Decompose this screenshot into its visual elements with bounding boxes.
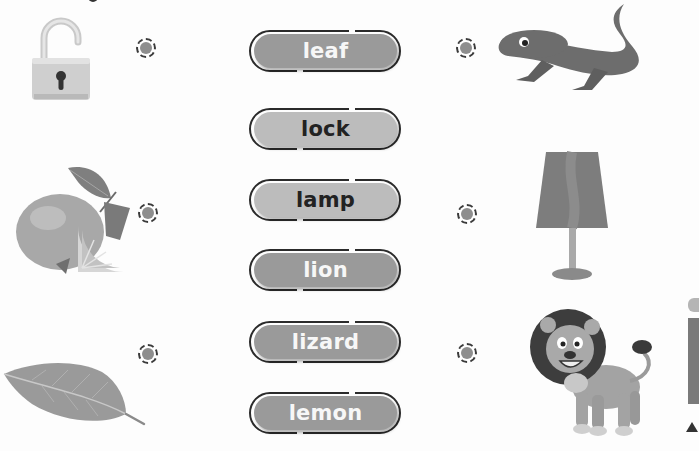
word-pill-lock[interactable]: lock xyxy=(249,108,401,150)
lion-icon xyxy=(526,303,658,438)
connector-dot-right-3[interactable] xyxy=(457,343,477,363)
open-padlock-icon xyxy=(22,12,102,104)
cropped-title-fragment xyxy=(88,0,98,2)
connector-dot-left-2[interactable] xyxy=(138,203,158,223)
picture-lock xyxy=(22,12,102,104)
picture-leaf xyxy=(2,362,147,432)
word-pill-lemon[interactable]: lemon xyxy=(249,392,401,434)
picture-lamp xyxy=(532,150,612,282)
connector-dot-right-1[interactable] xyxy=(456,38,476,58)
lemon-icon xyxy=(8,160,143,280)
word-label: lemon xyxy=(254,396,397,430)
leaf-icon xyxy=(2,362,147,432)
word-label: lamp xyxy=(254,183,397,217)
word-pill-leaf[interactable]: leaf xyxy=(249,30,401,72)
picture-lion xyxy=(526,303,658,438)
word-label: lion xyxy=(254,253,397,287)
word-label: lizard xyxy=(254,325,397,359)
connector-dot-left-3[interactable] xyxy=(138,344,158,364)
word-label: leaf xyxy=(254,34,397,68)
word-pill-lizard[interactable]: lizard xyxy=(249,321,401,363)
word-pill-lamp[interactable]: lamp xyxy=(249,179,401,221)
connector-dot-right-2[interactable] xyxy=(457,204,477,224)
picture-lizard xyxy=(494,2,670,94)
word-pill-lion[interactable]: lion xyxy=(249,249,401,291)
cropped-picture-fragment xyxy=(684,296,699,436)
connector-dot-left-1[interactable] xyxy=(136,38,156,58)
lizard-icon xyxy=(494,2,670,94)
picture-lemon xyxy=(8,160,143,280)
lamp-icon xyxy=(532,150,612,282)
word-label: lock xyxy=(254,112,397,146)
